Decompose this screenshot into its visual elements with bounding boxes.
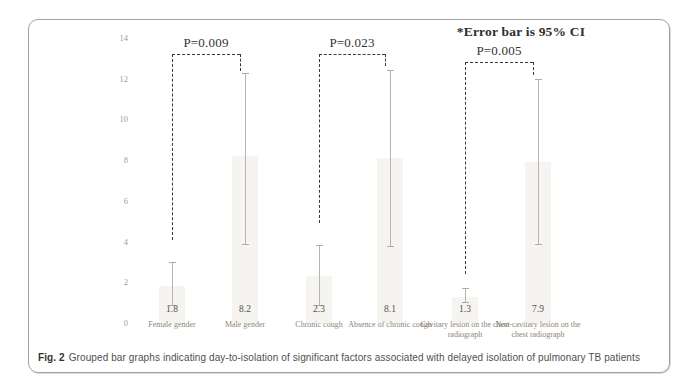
figure-caption: Fig. 2Grouped bar graphs indicating day-… — [38, 352, 652, 363]
figure-caption-text: Grouped bar graphs indicating day-to-iso… — [69, 352, 640, 363]
ci-annotation: *Error bar is 95% CI — [421, 24, 621, 40]
figure-caption-label: Fig. 2 — [38, 352, 65, 363]
figure-page: *Error bar is 95% CI 024681012141.8Femal… — [0, 0, 694, 380]
figure-border — [28, 19, 670, 373]
